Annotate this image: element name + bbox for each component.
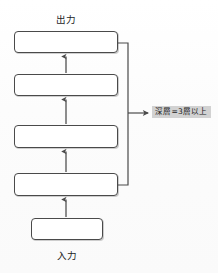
depth-bracket [118,43,148,185]
diagram-canvas: 出力 入力 深層=3層以上 [0,0,218,273]
connector-overlay [0,0,218,273]
